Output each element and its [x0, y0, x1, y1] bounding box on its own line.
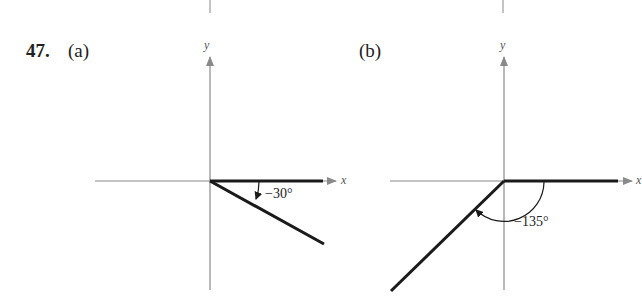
figure-a [95, 57, 336, 290]
diagram-canvas [0, 0, 642, 302]
part-b-label: (b) [359, 40, 381, 62]
angle-arc-a [256, 182, 259, 199]
y-axis-label-b: y [500, 38, 505, 53]
x-axis-label-a: x [341, 173, 346, 188]
y-axis-label-a: y [204, 38, 209, 53]
angle-label-a: −30° [265, 186, 293, 202]
x-axis-label-b: x [636, 173, 641, 188]
problem-number: 47. [26, 40, 50, 62]
terminal-side-b [391, 181, 504, 291]
part-a-label: (a) [68, 40, 89, 62]
figure-b [390, 57, 632, 291]
angle-label-b: −135° [514, 214, 549, 230]
